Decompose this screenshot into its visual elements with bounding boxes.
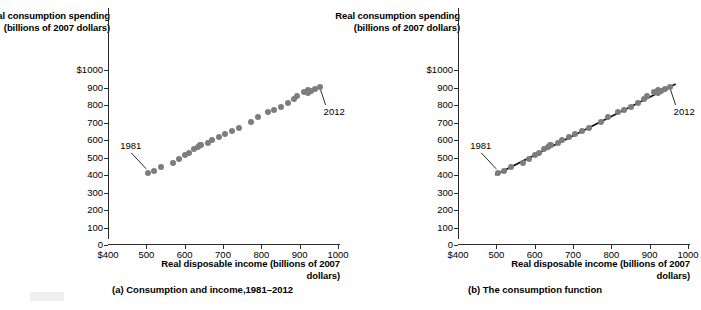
plot-area-a: 0100200300400500600700800900$1000 $40050…: [108, 70, 338, 245]
y-tick-label: 100: [87, 223, 103, 233]
y-tick-label: 300: [87, 188, 103, 198]
y-axis-title: Real consumption spending (billions of 2…: [0, 10, 110, 33]
y-tick-label: 500: [437, 153, 453, 163]
y-tick-label: 100: [437, 223, 453, 233]
y-tick-mark: [454, 245, 458, 246]
y-tick-label: 600: [87, 135, 103, 145]
point-label-1981: 1981: [120, 141, 141, 151]
y-tick-label: 400: [87, 170, 103, 180]
y-tick-label: 300: [437, 188, 453, 198]
y-tick-label: 700: [87, 118, 103, 128]
panel-caption: (a) Consumption and income,1981–2012: [112, 284, 293, 295]
y-tick-label: 500: [87, 153, 103, 163]
y-tick-label: 200: [87, 205, 103, 215]
plot-area-b: 0100200300400500600700800900$1000 $40050…: [458, 70, 688, 245]
y-tick-label: 900: [437, 83, 453, 93]
y-tick-label: $1000: [427, 65, 453, 75]
x-tick-label: $400: [447, 250, 468, 260]
y-tick-label: 600: [437, 135, 453, 145]
point-label-1981: 1981: [470, 141, 491, 151]
annotation-leader-lines: [108, 70, 338, 245]
y-tick-label: 800: [87, 100, 103, 110]
y-tick-label: 200: [437, 205, 453, 215]
x-tick-label: $400: [97, 250, 118, 260]
point-label-2012: 2012: [324, 107, 345, 117]
y-tick-label: 900: [87, 83, 103, 93]
y-tick-label: 700: [437, 118, 453, 128]
y-tick-label: $1000: [77, 65, 103, 75]
y-tick-label: 800: [437, 100, 453, 110]
x-axis-title: Real disposable income (billions of 2007…: [500, 258, 690, 281]
chart-panel-a: Real consumption spending (billions of 2…: [0, 0, 350, 310]
y-axis-title: Real consumption spending (billions of 2…: [312, 10, 460, 33]
annotation-leader-lines: [458, 70, 688, 245]
panel-caption: (b) The consumption function: [468, 284, 602, 295]
y-tick-label: 400: [437, 170, 453, 180]
point-label-2012: 2012: [674, 107, 695, 117]
x-axis-title: Real disposable income (billions of 2007…: [150, 258, 340, 281]
consumption-function-figure: Real consumption spending (billions of 2…: [0, 0, 701, 310]
chart-panel-b: Real consumption spending (billions of 2…: [348, 0, 698, 310]
y-tick-mark: [104, 245, 108, 246]
